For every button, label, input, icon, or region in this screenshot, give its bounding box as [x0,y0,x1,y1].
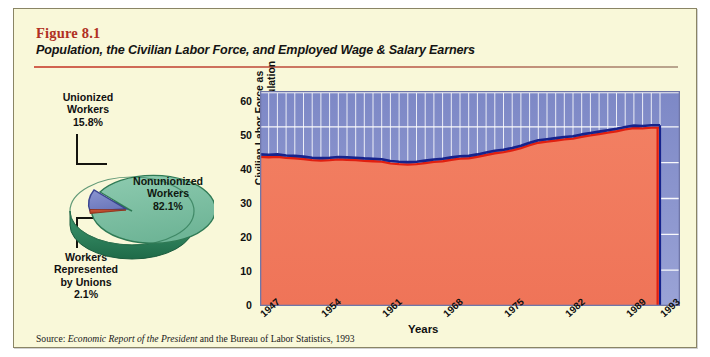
pie-label-nonunionized: Nonunionized Workers 82.1% [116,175,220,212]
area-chart-panel: Civilian Labor Force as Percent of Total… [228,85,688,335]
y-tick-10: 10 [230,265,252,277]
pie-chart-panel: Unionized Workers 15.8% Workers Represen… [28,87,234,322]
figure-card: Figure 8.1 Population, the Civilian Labo… [13,8,697,348]
pie-label-unionized: Unionized Workers 15.8% [42,91,134,128]
source-note: Source: Economic Report of the President… [36,333,355,344]
figure-root: Figure 8.1 Population, the Civilian Labo… [0,0,710,357]
figure-number: Figure 8.1 [36,25,101,42]
y-tick-60: 60 [230,95,252,107]
source-prefix: Source: [36,333,68,344]
source-italic-title: Economic Report of the President [68,333,198,344]
figure-card-inner: Figure 8.1 Population, the Civilian Labo… [14,9,696,347]
x-axis-title: Years [408,323,438,335]
y-tick-0: 0 [230,299,252,311]
y-tick-30: 30 [230,197,252,209]
y-tick-40: 40 [230,163,252,175]
area-chart-svg [260,91,680,306]
source-rest: and the Bureau of Labor Statistics, 1993 [197,333,354,344]
y-tick-20: 20 [230,231,252,243]
plot-area [260,91,680,306]
y-tick-50: 50 [230,129,252,141]
title-divider [34,66,678,68]
